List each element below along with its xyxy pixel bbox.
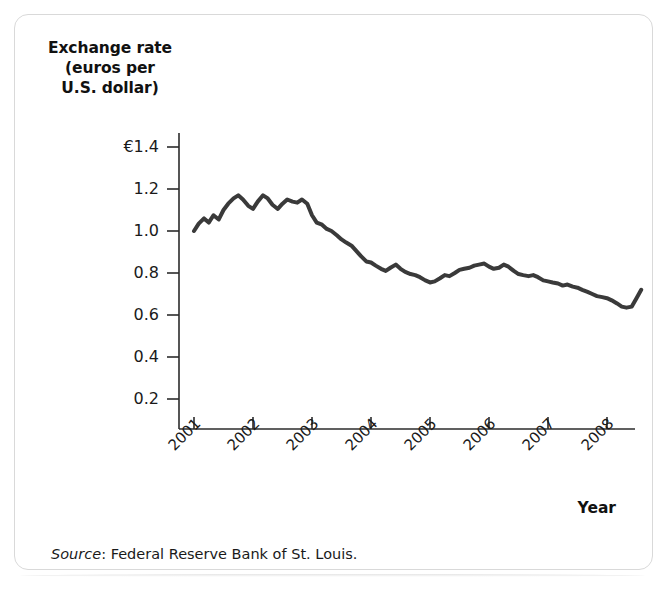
y-axis-tick-label: 0.6 <box>93 307 159 323</box>
x-axis-title: Year <box>578 499 616 517</box>
y-axis-tick-label: 0.8 <box>93 265 159 281</box>
y-axis-tick-label: 1.0 <box>93 223 159 239</box>
card-shadow <box>20 574 645 577</box>
data-series-line <box>194 195 641 307</box>
source-separator: : <box>101 546 111 562</box>
y-axis-tick-label: 1.2 <box>93 181 159 197</box>
source-label: Source <box>51 546 101 562</box>
y-axis-tick-label: 0.2 <box>93 391 159 407</box>
y-axis-ticks <box>167 147 179 399</box>
y-axis-tick-label: 0.4 <box>93 349 159 365</box>
line-chart-svg <box>15 15 654 571</box>
plot-area: €1.41.21.00.80.60.40.2 20012002200320042… <box>15 15 654 571</box>
source-value: Federal Reserve Bank of St. Louis. <box>111 546 358 562</box>
axis-lines <box>179 133 635 429</box>
y-axis-tick-label: €1.4 <box>93 139 159 155</box>
source-note: Source: Federal Reserve Bank of St. Loui… <box>51 546 357 562</box>
figure-card: Exchange rate (euros per U.S. dollar) €1… <box>14 14 653 570</box>
